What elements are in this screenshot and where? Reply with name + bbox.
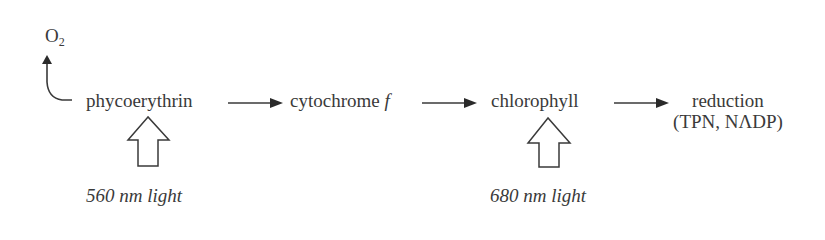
cytochrome-text: cytochrome bbox=[290, 90, 384, 111]
node-o2: O2 bbox=[45, 26, 65, 45]
light-input-arrow-560 bbox=[128, 117, 169, 166]
light-label-680: 680 nm light bbox=[490, 186, 586, 205]
node-chlorophyll: chlorophyll bbox=[491, 91, 579, 110]
o2-text: O bbox=[45, 25, 59, 46]
o2-subscript: 2 bbox=[59, 35, 65, 49]
node-phycoerythrin: phycoerythrin bbox=[86, 91, 193, 110]
cytochrome-f-suffix: f bbox=[384, 90, 389, 111]
arrow-phycoerythrin-to-cytochrome bbox=[228, 98, 283, 108]
reduction-line2: (TPN, NΛDP) bbox=[660, 112, 796, 131]
node-reduction: reduction (TPN, NΛDP) bbox=[660, 91, 796, 131]
node-cytochrome-f: cytochrome f bbox=[290, 91, 390, 110]
reduction-line1: reduction bbox=[660, 91, 796, 110]
curved-arrow-to-o2 bbox=[42, 55, 72, 100]
light-input-arrow-680 bbox=[528, 118, 570, 167]
light-label-560: 560 nm light bbox=[86, 186, 182, 205]
arrow-cytochrome-to-chlorophyll bbox=[422, 98, 477, 108]
